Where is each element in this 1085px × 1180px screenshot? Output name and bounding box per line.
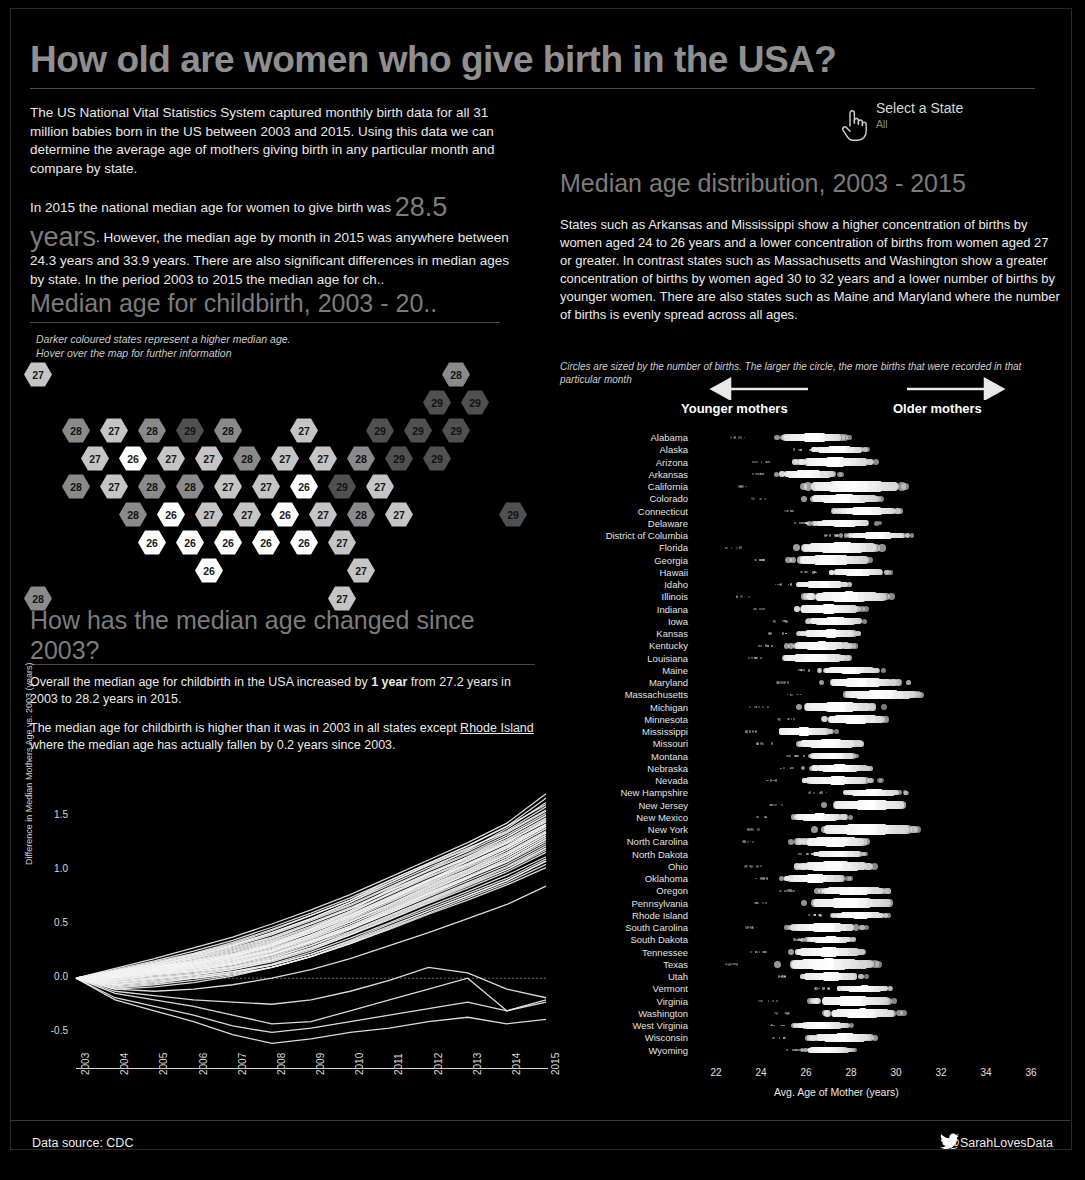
state-label[interactable]: Iowa	[560, 616, 688, 627]
hex-tile-nc[interactable]: 28	[347, 502, 375, 527]
state-label[interactable]: Arizona	[560, 457, 688, 468]
hex-tile-nm[interactable]: 26	[138, 530, 166, 555]
state-label[interactable]: Nebraska	[560, 763, 688, 774]
state-label[interactable]: Alaska	[560, 444, 688, 455]
hex-tile-nd[interactable]: 28	[138, 418, 166, 443]
hex-tile-ma[interactable]: 29	[404, 418, 432, 443]
state-label[interactable]: Florida	[560, 542, 688, 553]
hex-tile-ct[interactable]: 29	[442, 418, 470, 443]
hex-tile-va[interactable]: 29	[328, 474, 356, 499]
state-label[interactable]: Indiana	[560, 604, 688, 615]
state-label[interactable]: New Jersey	[560, 800, 688, 811]
hex-tile-oh[interactable]: 27	[309, 446, 337, 471]
state-label[interactable]: Kentucky	[560, 640, 688, 651]
state-label[interactable]: New York	[560, 824, 688, 835]
hex-tile-mn[interactable]: 29	[176, 418, 204, 443]
hex-tile-co[interactable]: 26	[157, 502, 185, 527]
state-label[interactable]: North Carolina	[560, 836, 688, 847]
state-label[interactable]: Montana	[560, 751, 688, 762]
state-label[interactable]: Idaho	[560, 579, 688, 590]
hex-tile-ak[interactable]: 27	[24, 362, 52, 387]
state-label[interactable]: Utah	[560, 971, 688, 982]
state-label[interactable]: Wisconsin	[560, 1032, 688, 1043]
state-label[interactable]: Maine	[560, 665, 688, 676]
state-distribution-chart[interactable]: AlabamaAlaskaArizonaArkansasCaliforniaCo…	[560, 432, 1060, 1072]
state-label[interactable]: Minnesota	[560, 714, 688, 725]
state-label[interactable]: Connecticut	[560, 506, 688, 517]
median-age-change-line-chart[interactable]: Difference in Median Mothers Age vs. 200…	[28, 775, 548, 1135]
hex-tile-dc[interactable]: 27	[385, 502, 413, 527]
state-label[interactable]: Louisiana	[560, 653, 688, 664]
state-label[interactable]: Michigan	[560, 702, 688, 713]
hex-tile-ca[interactable]: 28	[62, 474, 90, 499]
hex-tile-ne[interactable]: 28	[176, 474, 204, 499]
hex-tile-or[interactable]: 27	[81, 446, 109, 471]
state-label[interactable]: Tennessee	[560, 947, 688, 958]
hex-tile-map[interactable]: 2728292928272829282729292927262727282727…	[24, 362, 534, 602]
state-selector-value[interactable]: All	[876, 117, 963, 131]
hex-tile-pa[interactable]: 28	[347, 446, 375, 471]
hex-tile-md[interactable]: 27	[366, 474, 394, 499]
hex-tile-nh[interactable]: 29	[461, 390, 489, 415]
hex-tile-ks[interactable]: 27	[233, 502, 261, 527]
hex-tile-id[interactable]: 26	[119, 446, 147, 471]
state-label[interactable]: Hawaii	[560, 567, 688, 578]
state-label[interactable]: Virginia	[560, 996, 688, 1007]
hex-tile-ri[interactable]: 29	[423, 446, 451, 471]
hex-tile-me[interactable]: 28	[442, 362, 470, 387]
state-label[interactable]: Washington	[560, 1008, 688, 1019]
state-label[interactable]: Rhode Island	[560, 910, 688, 921]
state-label[interactable]: North Dakota	[560, 849, 688, 860]
state-label[interactable]: Vermont	[560, 983, 688, 994]
state-label[interactable]: Kansas	[560, 628, 688, 639]
state-label[interactable]: Colorado	[560, 493, 688, 504]
state-label[interactable]: Maryland	[560, 677, 688, 688]
state-label[interactable]: Pennsylvania	[560, 898, 688, 909]
hex-tile-tx[interactable]: 26	[195, 558, 223, 583]
hex-tile-nv[interactable]: 27	[100, 474, 128, 499]
hex-tile-ok[interactable]: 26	[176, 530, 204, 555]
hex-tile-de[interactable]: 29	[499, 502, 527, 527]
state-label[interactable]: Oregon	[560, 885, 688, 896]
state-label[interactable]: Massachusetts	[560, 689, 688, 700]
state-label[interactable]: Texas	[560, 959, 688, 970]
rhode-island-link[interactable]: Rhode Island	[460, 721, 534, 735]
hex-tile-in[interactable]: 27	[271, 446, 299, 471]
state-label[interactable]: Arkansas	[560, 469, 688, 480]
hex-tile-al[interactable]: 26	[290, 530, 318, 555]
hex-tile-mt[interactable]: 27	[100, 418, 128, 443]
hex-tile-ar[interactable]: 26	[271, 502, 299, 527]
state-label[interactable]: Georgia	[560, 555, 688, 566]
state-label[interactable]: Alabama	[560, 432, 688, 443]
state-label[interactable]: New Mexico	[560, 812, 688, 823]
hex-tile-mi[interactable]: 27	[290, 418, 318, 443]
state-label[interactable]: Wyoming	[560, 1045, 688, 1056]
hex-tile-il[interactable]: 28	[233, 446, 261, 471]
hex-tile-la[interactable]: 26	[214, 530, 242, 555]
hex-tile-nj[interactable]: 29	[385, 446, 413, 471]
hex-tile-az[interactable]: 27	[195, 502, 223, 527]
hex-tile-ny[interactable]: 29	[366, 418, 394, 443]
state-selector[interactable]: Select a State All	[838, 100, 963, 142]
hex-tile-wa[interactable]: 28	[62, 418, 90, 443]
hex-tile-sc[interactable]: 27	[328, 530, 356, 555]
state-label[interactable]: Nevada	[560, 775, 688, 786]
state-label[interactable]: Mississippi	[560, 726, 688, 737]
hex-tile-ms[interactable]: 26	[252, 530, 280, 555]
state-label[interactable]: Illinois	[560, 591, 688, 602]
state-label[interactable]: Delaware	[560, 518, 688, 529]
hex-tile-ga[interactable]: 27	[347, 558, 375, 583]
hex-tile-vt[interactable]: 29	[423, 390, 451, 415]
hex-tile-mo[interactable]: 27	[214, 474, 242, 499]
state-label[interactable]: South Dakota	[560, 934, 688, 945]
hex-tile-ia[interactable]: 27	[195, 446, 223, 471]
state-label[interactable]: West Virginia	[560, 1020, 688, 1031]
hex-tile-wv[interactable]: 26	[290, 474, 318, 499]
hex-tile-ut[interactable]: 28	[119, 502, 147, 527]
state-label[interactable]: Oklahoma	[560, 873, 688, 884]
state-label[interactable]: California	[560, 481, 688, 492]
hex-tile-ky[interactable]: 27	[252, 474, 280, 499]
hex-tile-sd[interactable]: 27	[157, 446, 185, 471]
state-label[interactable]: Ohio	[560, 861, 688, 872]
hex-tile-wy[interactable]: 28	[138, 474, 166, 499]
